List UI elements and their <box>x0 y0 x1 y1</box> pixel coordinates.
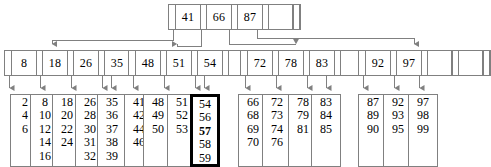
internal-node-1-pointer-4 <box>98 51 105 75</box>
internal-node-2-key-3: 54 <box>198 51 222 75</box>
internal-node-4-empty-slot-4 <box>459 51 483 75</box>
internal-node-4-pointer-4 <box>452 51 459 75</box>
edge-root-to-internal-4 <box>258 30 415 44</box>
internal-node-4: 9297 <box>358 50 491 76</box>
internal-node-2-pointer-4 <box>222 51 229 75</box>
leaf-16-value-2: 98 <box>409 109 437 122</box>
internal-node-3-key-1: 72 <box>248 51 272 75</box>
internal-node-2-key-2: 51 <box>167 51 191 75</box>
leaf-5-value-1: 35 <box>98 96 126 109</box>
leaf-13-value-1: 83 <box>312 96 340 109</box>
internal-node-1: 8182635 <box>4 50 137 76</box>
root-node-key-2: 66 <box>207 5 231 29</box>
internal-node-2-pointer-1 <box>129 51 136 75</box>
leaf-9: 5456575859 <box>190 94 220 167</box>
leaf-5-value-4: 38 <box>98 136 126 149</box>
root-node-pointer-1 <box>169 5 176 29</box>
internal-node-3-pointer-1 <box>241 51 248 75</box>
internal-node-4-key-1: 92 <box>366 51 390 75</box>
root-node-key-1: 41 <box>176 5 200 29</box>
internal-node-3: 727883 <box>240 50 373 76</box>
root-node-pointer-last <box>293 5 300 29</box>
internal-node-1-key-4: 35 <box>105 51 129 75</box>
leaf-11-value-4: 76 <box>263 136 291 149</box>
root-node-key-3: 87 <box>238 5 262 29</box>
internal-node-4-pointer-3 <box>421 51 428 75</box>
root-node-pointer-2 <box>200 5 207 29</box>
internal-node-4-pointer-2 <box>390 51 397 75</box>
edge-root-to-internal-1 <box>52 30 174 44</box>
leaf-9-value-3: 57 <box>193 125 217 138</box>
leaf-11-value-1: 72 <box>263 96 291 109</box>
leaf-16-value-3: 99 <box>409 123 437 136</box>
leaf-5-value-3: 37 <box>98 123 126 136</box>
internal-node-4-pointer-last <box>483 51 490 75</box>
internal-node-3-key-2: 78 <box>279 51 303 75</box>
edge-root-to-internal-2 <box>177 30 202 46</box>
internal-node-1-pointer-2 <box>36 51 43 75</box>
internal-node-1-key-2: 18 <box>43 51 67 75</box>
internal-node-3-pointer-2 <box>272 51 279 75</box>
root-node-pointer-4 <box>262 5 269 29</box>
leaf-16-value-1: 97 <box>409 96 437 109</box>
internal-node-3-pointer-4 <box>334 51 341 75</box>
root-node-pointer-3 <box>231 5 238 29</box>
internal-node-3-pointer-3 <box>303 51 310 75</box>
leaf-13-value-3: 85 <box>312 123 340 136</box>
leaf-5: 3536373839 <box>97 94 127 167</box>
internal-node-1-pointer-1 <box>5 51 12 75</box>
leaf-13-value-2: 84 <box>312 109 340 122</box>
leaf-11-value-3: 74 <box>263 123 291 136</box>
internal-node-3-key-3: 83 <box>310 51 334 75</box>
internal-node-2-key-1: 48 <box>136 51 160 75</box>
internal-node-4-empty-slot-3 <box>428 51 452 75</box>
root-node: 416687 <box>168 4 301 30</box>
internal-node-1-key-3: 26 <box>74 51 98 75</box>
leaf-11-value-2: 73 <box>263 109 291 122</box>
internal-node-4-key-2: 97 <box>397 51 421 75</box>
internal-node-1-pointer-3 <box>67 51 74 75</box>
leaf-16: 979899 <box>408 94 438 167</box>
edge-root-to-internal-3 <box>230 30 297 44</box>
internal-node-2-pointer-3 <box>191 51 198 75</box>
leaf-5-value-2: 36 <box>98 109 126 122</box>
leaf-9-value-4: 58 <box>193 138 217 151</box>
leaf-5-value-5: 39 <box>98 150 126 163</box>
internal-node-2-pointer-2 <box>160 51 167 75</box>
internal-node-4-pointer-1 <box>359 51 366 75</box>
internal-node-1-key-1: 8 <box>12 51 36 75</box>
root-node-empty-slot-4 <box>269 5 293 29</box>
leaf-9-value-5: 59 <box>193 152 217 165</box>
leaf-13: 838485 <box>311 94 341 167</box>
leaf-9-value-2: 56 <box>193 111 217 124</box>
leaf-9-value-1: 54 <box>193 98 217 111</box>
